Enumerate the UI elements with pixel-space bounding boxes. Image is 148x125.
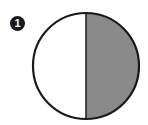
shaded-half (86, 13, 139, 119)
unshaded-half (33, 13, 86, 119)
half-shaded-circle (0, 0, 148, 125)
